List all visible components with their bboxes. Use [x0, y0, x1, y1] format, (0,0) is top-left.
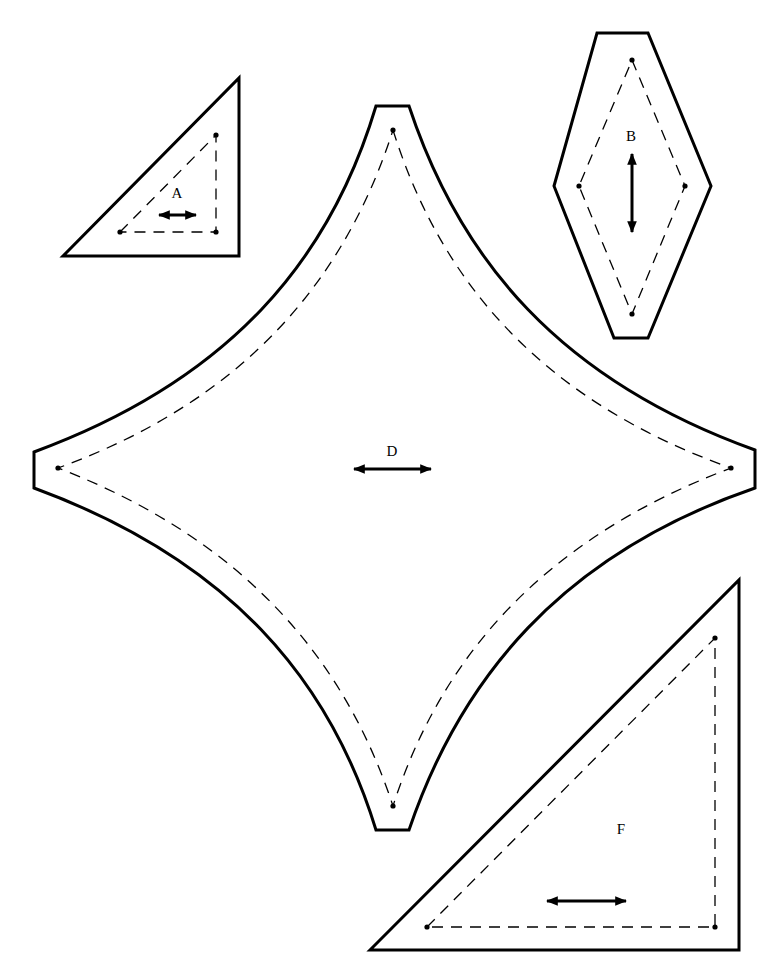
corner-dot	[213, 229, 218, 234]
piece-b-label: B	[626, 128, 636, 144]
pattern-sheet: A B D F	[0, 0, 772, 976]
piece-a-label: A	[172, 185, 183, 201]
piece-a: A	[63, 78, 239, 256]
corner-dot	[682, 183, 687, 188]
corner-dot	[728, 465, 733, 470]
piece-a-cut-line	[63, 78, 239, 256]
corner-dot	[576, 183, 581, 188]
corner-dot	[629, 311, 634, 316]
corner-dot	[390, 803, 395, 808]
corner-dot	[629, 57, 634, 62]
corner-dot	[424, 924, 429, 929]
piece-d-label: D	[387, 443, 398, 459]
piece-f-label: F	[617, 821, 625, 837]
corner-dot	[213, 132, 218, 137]
corner-dot	[712, 635, 717, 640]
corner-dot	[712, 924, 717, 929]
corner-dot	[117, 229, 122, 234]
corner-dot	[55, 465, 60, 470]
piece-b: B	[554, 33, 711, 338]
corner-dot	[390, 127, 395, 132]
